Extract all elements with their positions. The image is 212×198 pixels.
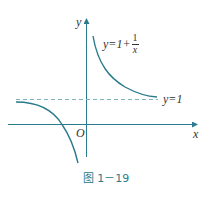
figure-caption: 图 1－19 [0,169,212,185]
fraction-numerator: 1 [132,33,139,45]
origin-label: O [76,127,85,139]
fraction: 1 x [132,33,139,55]
fraction-denominator: x [133,45,137,56]
curve-left-branch [16,102,78,163]
asymptote-label: y=1 [163,93,182,105]
equation-prefix: y=1+ [103,37,131,52]
x-axis-label: x [193,128,198,140]
curve-equation-label: y=1+ 1 x [103,33,139,55]
y-axis-label: y [76,16,81,28]
